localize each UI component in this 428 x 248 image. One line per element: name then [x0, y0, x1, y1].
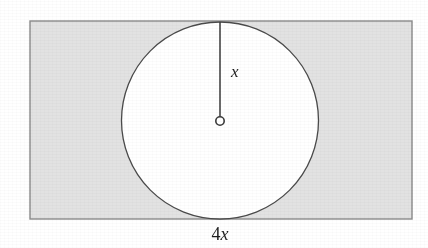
diagram-canvas: x 4x — [0, 0, 428, 248]
center-point-marker — [216, 117, 224, 125]
geometry-figure: x 4x — [0, 0, 428, 248]
width-label-variable: x — [220, 224, 229, 244]
radius-label: x — [230, 62, 239, 81]
width-label: 4x — [212, 224, 229, 244]
width-label-coefficient: 4 — [212, 224, 221, 244]
